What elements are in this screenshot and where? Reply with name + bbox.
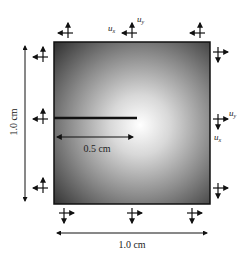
bottom-boundary-arrow-3 [187, 208, 202, 223]
left-boundary-arrow-3 [33, 178, 48, 193]
right-ux-label: ux [214, 132, 222, 143]
top-boundary-arrow-3 [190, 23, 205, 38]
crack-length-label: 0.5 cm [83, 143, 110, 154]
height-dimension-label: 1.0 cm [8, 108, 19, 135]
top-boundary-arrow-1 [58, 23, 73, 38]
right-boundary-arrow-3 [213, 183, 228, 198]
specimen-plate [54, 42, 210, 204]
bottom-boundary-arrow-2 [127, 208, 142, 223]
top-boundary-arrow-2 [122, 23, 137, 38]
right-uy-label: uy [229, 108, 237, 119]
width-dimension-label: 1.0 cm [118, 239, 145, 250]
left-boundary-arrow-1 [33, 47, 48, 62]
left-boundary-arrow-2 [33, 109, 48, 124]
right-boundary-arrow-2 [213, 114, 228, 129]
top-ux-label: ux [108, 23, 116, 34]
right-boundary-arrow-1 [213, 47, 228, 62]
top-uy-label: uy [137, 14, 145, 25]
crack-specimen-diagram: 0.5 cm 1.0 cm 1.0 cm ux uy uy ux [0, 0, 247, 256]
bottom-boundary-arrow-1 [59, 208, 74, 223]
